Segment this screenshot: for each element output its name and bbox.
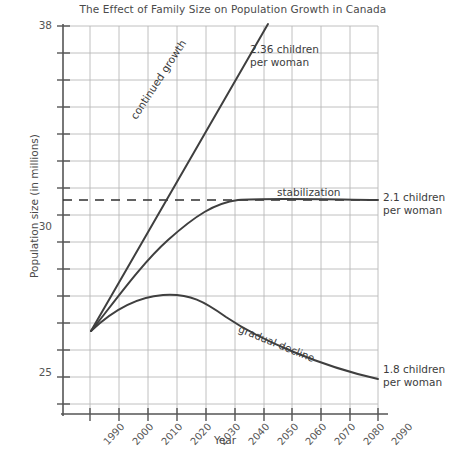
annotation-1-8-line2: per woman [383,376,445,389]
annotation-2-36-children: 2.36 children per woman [250,43,319,68]
annotation-2-36-line1: 2.36 children [250,43,319,56]
annotation-2-1-children: 2.1 children per woman [383,191,445,216]
annotation-2-36-line2: per woman [250,56,319,69]
y-tick-label-38: 38 [22,19,52,31]
y-tick-label-25: 25 [22,366,52,378]
annotation-1-8-children: 1.8 children per woman [383,363,445,388]
chart-figure: The Effect of Family Size on Population … [0,0,466,454]
annotation-1-8-line1: 1.8 children [383,363,445,376]
horizontal-gridlines [63,26,378,404]
axis-lines [61,24,388,416]
y-tick-label-30: 30 [22,220,52,232]
annotation-2-1-line1: 2.1 children [383,191,445,204]
series-gradual-decline [91,295,378,379]
annotation-2-1-line2: per woman [383,204,445,217]
series-continued-growth [91,24,268,331]
y-axis-title: Population size (in millions) [28,126,40,286]
series-stabilization [91,199,378,331]
curve-label-stabilization: stabilization [277,186,341,198]
